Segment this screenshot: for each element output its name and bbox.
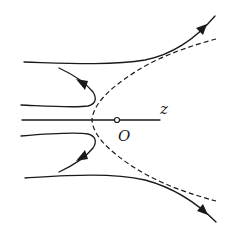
arrow-head-icon (76, 79, 88, 90)
arrow-head-icon (197, 204, 208, 215)
arrow-head-icon (76, 150, 88, 161)
hyperbola-field-diagram: z O (0, 0, 237, 236)
lower-outer-curve (25, 175, 216, 222)
origin-point (115, 118, 120, 123)
origin-label: O (118, 127, 130, 145)
upper-outer-curve (24, 16, 215, 64)
z-axis-label: z (159, 100, 168, 118)
